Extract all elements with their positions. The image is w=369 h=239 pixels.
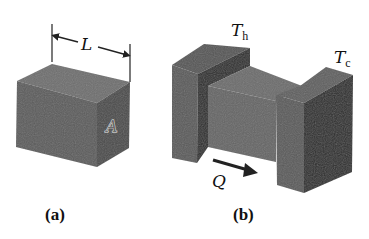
- dimension-arrow-right: [98, 47, 127, 55]
- heat-flow-label: Q: [212, 171, 226, 191]
- hot-reservoir-front-face: [172, 65, 198, 163]
- heat-flow-arrow-shaft: [213, 160, 248, 170]
- panel-b: Q Th Tc (b): [172, 20, 353, 224]
- cold-temperature-subscript: c: [345, 56, 350, 70]
- area-label: A: [104, 117, 118, 136]
- length-label: L: [80, 34, 92, 54]
- heat-flow-arrow-head: [243, 163, 258, 177]
- caption-b: (b): [233, 205, 254, 224]
- cold-temperature-label: Tc: [334, 47, 351, 70]
- panel-a: L A (a): [16, 24, 130, 224]
- cold-reservoir-front-face: [276, 95, 304, 193]
- dimension-arrow-left: [55, 36, 78, 42]
- figure-canvas: L A (a) Q Th: [0, 0, 369, 239]
- caption-a: (a): [45, 205, 65, 224]
- block-a: [16, 64, 130, 167]
- hot-temperature-subscript: h: [242, 29, 248, 43]
- hot-temperature-label: Th: [231, 20, 248, 43]
